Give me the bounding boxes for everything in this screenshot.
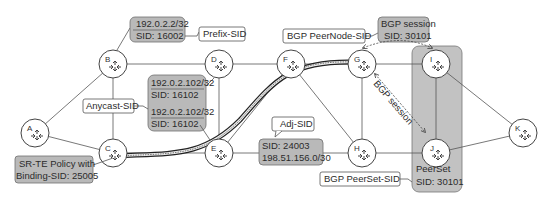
router-node-h[interactable]: H [348,139,376,167]
router-node-a[interactable]: A [21,119,49,147]
bgp-session-diagonal-label: BGP session [371,78,415,127]
router-node-g[interactable]: G [348,50,376,78]
prefix-sid-value: SID: 16002 [136,30,184,41]
svg-text:SID: 24003: SID: 24003 [262,140,310,151]
prefix-sid-callout: Prefix-SID [185,27,246,41]
svg-text:Anycast-SID: Anycast-SID [86,100,139,111]
svg-text:192.0.2.102/32: 192.0.2.102/32 [151,77,214,88]
adj-sid-callout: Adj-SID [272,117,314,137]
router-node-b[interactable]: B [99,50,127,78]
node-label: G [354,55,360,64]
router-node-i[interactable]: I [422,50,450,78]
node-label: H [354,144,360,153]
node-label: A [27,124,33,133]
peerset-label: PeerSet [416,163,451,174]
prefix-sid-prefix: 192.0.2.2/32 [136,18,189,29]
prefix-sid-box: 192.0.2.2/32 SID: 16002 [117,17,189,50]
node-label: D [211,55,217,64]
anycast-sid-box: 192.0.2.102/32 SID: 16102 192.0.2.102/32… [148,75,214,140]
node-label: J [430,144,434,153]
node-label: K [515,124,521,133]
svg-text:198.51.156.0/30: 198.51.156.0/30 [262,152,331,163]
node-label: B [105,55,110,64]
svg-text:SID: 30101: SID: 30101 [384,30,432,41]
node-label: E [211,144,216,153]
svg-text:BGP PeerNode-SID: BGP PeerNode-SID [287,30,371,41]
svg-text:Prefix-SID: Prefix-SID [203,28,246,39]
node-label: F [283,55,288,64]
bgp-peerset-callout: BGP PeerSet-SID [320,172,412,186]
svg-text:SR-TE Policy with: SR-TE Policy with [19,158,95,169]
router-node-f[interactable]: F [277,50,305,78]
srte-policy-box: SR-TE Policy with Binding-SID: 25005 [15,156,113,183]
node-label: I [430,55,432,64]
bgp-peernode-callout: BGP PeerNode-SID [283,29,378,43]
svg-text:SID: 16102: SID: 16102 [151,118,199,129]
router-node-d[interactable]: D [205,50,233,78]
router-node-c[interactable]: C [99,139,127,167]
svg-text:192.0.2.102/32: 192.0.2.102/32 [151,106,214,117]
node-label: C [105,144,111,153]
bgp-session-box: BGP session SID: 30101 [378,17,436,42]
svg-text:SID: 16102: SID: 16102 [151,89,199,100]
svg-text:BGP session: BGP session [381,18,436,29]
svg-text:Binding-SID: 25005: Binding-SID: 25005 [16,170,98,181]
svg-text:Adj-SID: Adj-SID [280,118,313,129]
adj-sid-box: SID: 24003 198.51.156.0/30 [259,139,331,165]
router-node-k[interactable]: K [509,119,537,147]
anycast-sid-callout: Anycast-SID [83,99,148,113]
router-node-e[interactable]: E [205,139,233,167]
svg-text:BGP PeerSet-SID: BGP PeerSet-SID [324,173,400,184]
peerset-sid: SID: 30101 [416,176,464,187]
